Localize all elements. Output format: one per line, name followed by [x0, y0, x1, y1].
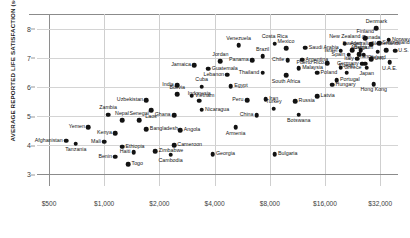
- data-point-label: Denmark: [366, 19, 388, 25]
- data-point-label: Haiti: [120, 150, 131, 156]
- data-point-label: Belgium: [354, 46, 373, 52]
- data-point-label: Jamaica: [171, 62, 191, 68]
- data-point: [86, 125, 91, 130]
- data-point-label: Spain: [332, 52, 346, 58]
- data-point: [236, 43, 241, 48]
- data-point: [102, 139, 107, 144]
- data-point-label: Indonesia: [188, 92, 211, 98]
- x-axis-tick-label: $500: [42, 200, 57, 207]
- data-point-label: Chile: [272, 57, 284, 63]
- x-axis-line: [29, 14, 398, 15]
- data-point-label: Poland: [321, 70, 338, 76]
- x-gridline: [325, 14, 326, 186]
- plot-area: $500$1,000$2,000$4,000$8,000$16,000$32,0…: [37, 14, 398, 186]
- data-point: [113, 155, 118, 160]
- data-point: [210, 152, 215, 157]
- data-point: [199, 85, 204, 90]
- data-point: [303, 46, 308, 51]
- data-point: [315, 94, 320, 99]
- y-axis-title: AVERAGE REPORTED LIFE SATISFACTION (scal…: [9, 0, 16, 146]
- data-point-label: Nepal: [115, 111, 129, 117]
- data-point-label: Russia: [299, 99, 315, 105]
- data-point-label: Venezuela: [226, 37, 251, 43]
- data-point: [172, 113, 177, 118]
- y-gridline: [37, 29, 398, 30]
- data-point: [144, 127, 149, 132]
- y-axis-tick-label: 7: [27, 54, 31, 61]
- data-point-label: Bulgaria: [278, 151, 297, 157]
- data-point: [113, 131, 118, 136]
- y-axis-tick-label: 4: [27, 142, 31, 149]
- data-point: [197, 99, 202, 104]
- x-axis-tick-label: $1,000: [94, 200, 114, 207]
- y-gridline: [37, 145, 398, 146]
- x-axis-tick-label: $32,000: [368, 200, 392, 207]
- data-point: [284, 46, 289, 51]
- x-axis-tick-label: $2,000: [149, 200, 169, 207]
- data-point-label: Saudi Arabia: [309, 45, 339, 51]
- data-point-label: Panama: [229, 57, 249, 63]
- data-point: [271, 106, 276, 111]
- data-point-label: Angola: [184, 127, 201, 133]
- data-point-label: Botswana: [287, 118, 310, 124]
- y-gridline: [37, 174, 398, 175]
- y-gridline: [37, 116, 398, 117]
- data-point-label: Latvia: [321, 93, 335, 99]
- data-point: [384, 48, 389, 53]
- data-point: [199, 107, 204, 112]
- data-point: [315, 71, 320, 76]
- data-point-label: Georgia: [216, 151, 235, 157]
- data-point-label: Netherlands: [372, 41, 401, 47]
- data-point-label: Jordan: [212, 52, 228, 58]
- data-point: [178, 128, 183, 133]
- data-point: [126, 162, 131, 167]
- data-point: [300, 57, 305, 62]
- data-point: [175, 92, 180, 97]
- data-point-label: Turkey: [266, 100, 282, 106]
- data-point: [293, 99, 298, 104]
- data-point: [64, 139, 69, 144]
- data-point: [144, 98, 149, 103]
- data-point-label: Kuwait: [339, 64, 355, 70]
- y-axis-tick-label: 6: [27, 83, 31, 90]
- data-point-label: Brazil: [256, 47, 269, 53]
- data-point-label: Senegal: [129, 111, 148, 117]
- data-point-label: U.K.: [374, 57, 384, 63]
- x-gridline: [215, 14, 216, 186]
- data-point-label: Ghana: [155, 112, 171, 118]
- data-point: [272, 41, 277, 46]
- data-point: [245, 98, 250, 103]
- data-point-label: Yemen: [69, 124, 85, 130]
- data-point-label: Togo: [132, 161, 144, 167]
- data-point-label: New Zealand: [329, 35, 360, 41]
- x-gridline: [49, 14, 50, 186]
- data-point: [260, 71, 265, 76]
- data-point-label: Mexico: [278, 39, 295, 45]
- data-point-label: Mali: [91, 139, 101, 145]
- data-point: [106, 112, 111, 117]
- x-gridline: [104, 14, 105, 186]
- y-axis-tick-label: 5: [27, 113, 31, 120]
- data-point-label: Afghanistan: [35, 138, 63, 144]
- data-point-label: South Africa: [272, 79, 301, 85]
- data-point-label: Japan: [359, 71, 373, 77]
- data-point-label: U.A.E.: [382, 66, 397, 72]
- data-point: [153, 149, 158, 154]
- data-point: [137, 118, 142, 123]
- data-point-label: U.S.: [398, 48, 408, 54]
- x-axis-tick-label: $4,000: [205, 200, 225, 207]
- data-point: [260, 54, 265, 59]
- x-axis-tick-label: $8,000: [260, 200, 280, 207]
- data-point-label: France: [357, 55, 374, 61]
- data-point: [330, 82, 335, 87]
- data-point: [374, 26, 379, 31]
- data-point-label: Cambodia: [158, 158, 182, 164]
- data-point: [285, 58, 290, 63]
- data-point-label: Uzbekistan: [117, 97, 143, 103]
- data-point-label: Hungary: [336, 82, 356, 88]
- data-point: [393, 48, 398, 53]
- data-point-label: Bangladesh: [150, 126, 178, 132]
- data-point: [218, 59, 223, 64]
- data-point: [192, 63, 197, 68]
